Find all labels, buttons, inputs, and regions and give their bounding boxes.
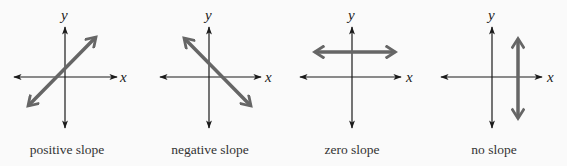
x-axis-label: x bbox=[264, 69, 272, 85]
panel-zero-slope: x y zero slope bbox=[300, 7, 413, 157]
caption-zero-slope: zero slope bbox=[324, 142, 379, 157]
slope-diagram: x y positive slope x y negative slope x … bbox=[0, 0, 567, 166]
x-axis-label: x bbox=[546, 69, 554, 85]
y-axis-label: y bbox=[203, 7, 212, 23]
negative-slope-line bbox=[185, 39, 250, 105]
caption-negative-slope: negative slope bbox=[171, 142, 249, 157]
y-axis-label: y bbox=[59, 7, 68, 23]
x-axis-label: x bbox=[119, 69, 127, 85]
caption-positive-slope: positive slope bbox=[30, 142, 105, 157]
positive-slope-line bbox=[29, 38, 95, 105]
panel-no-slope: x y no slope bbox=[441, 7, 554, 157]
y-axis-label: y bbox=[346, 7, 355, 23]
y-axis-label: y bbox=[486, 7, 495, 23]
caption-no-slope: no slope bbox=[471, 142, 516, 157]
panel-negative-slope: x y negative slope bbox=[160, 7, 272, 157]
panel-positive-slope: x y positive slope bbox=[14, 7, 127, 157]
x-axis-label: x bbox=[405, 69, 413, 85]
